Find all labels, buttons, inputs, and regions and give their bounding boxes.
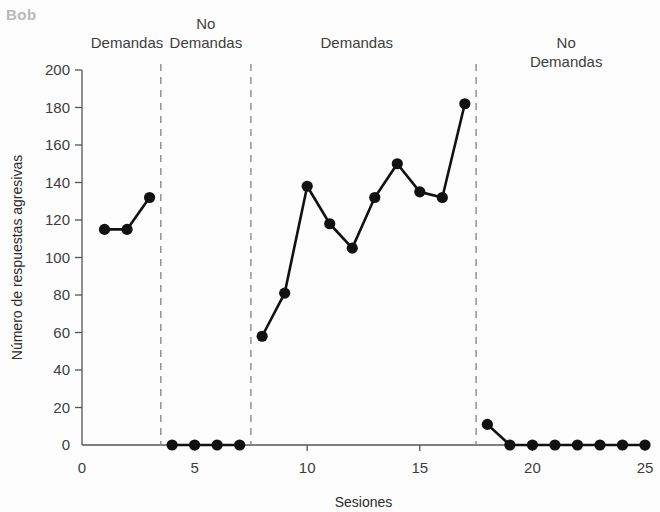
data-point-marker	[302, 181, 313, 192]
data-point-marker	[189, 439, 200, 450]
data-point-marker	[549, 439, 560, 450]
data-point-marker	[369, 192, 380, 203]
y-tick-label: 20	[53, 399, 70, 416]
single-case-line-chart: 020406080100120140160180200 0510152025 S…	[0, 0, 660, 512]
data-series-markers	[99, 98, 651, 450]
data-point-marker	[617, 439, 628, 450]
data-series-lines	[105, 104, 645, 445]
phase-series-line	[262, 104, 465, 337]
y-tick-label: 100	[45, 249, 70, 266]
y-tick-label: 60	[53, 324, 70, 341]
y-tick-label: 160	[45, 136, 70, 153]
x-tick-label: 0	[78, 459, 86, 476]
y-tick-label: 180	[45, 99, 70, 116]
x-axis-ticks: 0510152025	[78, 445, 654, 476]
y-axis-title: Número de respuestas agresivas	[9, 155, 25, 360]
data-point-marker	[437, 192, 448, 203]
x-tick-label: 20	[524, 459, 541, 476]
data-point-marker	[639, 439, 650, 450]
data-point-marker	[482, 419, 493, 430]
x-tick-label: 5	[190, 459, 198, 476]
data-point-marker	[572, 439, 583, 450]
data-point-marker	[257, 331, 268, 342]
x-axis-title: Sesiones	[335, 494, 393, 510]
phase-divider-lines	[161, 64, 476, 445]
y-tick-label: 80	[53, 286, 70, 303]
data-point-marker	[414, 186, 425, 197]
axis-lines	[82, 70, 647, 445]
data-point-marker	[324, 218, 335, 229]
data-point-marker	[594, 439, 605, 450]
data-point-marker	[347, 243, 358, 254]
data-point-marker	[212, 439, 223, 450]
data-point-marker	[459, 98, 470, 109]
x-tick-label: 10	[299, 459, 316, 476]
data-point-marker	[166, 439, 177, 450]
data-point-marker	[121, 224, 132, 235]
x-tick-label: 25	[637, 459, 654, 476]
y-tick-label: 140	[45, 174, 70, 191]
chart-page: Bob DemandasNo DemandasDemandasNo Demand…	[0, 0, 660, 512]
y-tick-label: 0	[62, 436, 70, 453]
data-point-marker	[279, 288, 290, 299]
data-point-marker	[392, 158, 403, 169]
y-tick-label: 200	[45, 61, 70, 78]
data-point-marker	[527, 439, 538, 450]
y-tick-label: 40	[53, 361, 70, 378]
y-axis-ticks: 020406080100120140160180200	[45, 61, 82, 453]
y-tick-label: 120	[45, 211, 70, 228]
x-tick-label: 15	[411, 459, 428, 476]
data-point-marker	[504, 439, 515, 450]
data-point-marker	[234, 439, 245, 450]
data-point-marker	[144, 192, 155, 203]
data-point-marker	[99, 224, 110, 235]
